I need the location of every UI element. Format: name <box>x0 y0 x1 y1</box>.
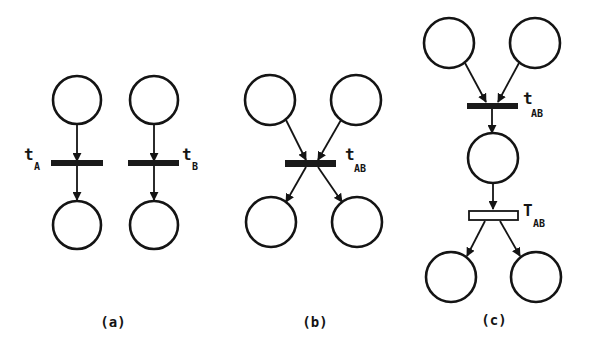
arc-c-in-right <box>498 63 519 102</box>
label-t-b-main: t <box>182 145 192 164</box>
transition-t-a <box>51 160 103 166</box>
panel-c: t AB T AB (c) <box>424 18 561 328</box>
arc-b-in-right <box>318 120 341 160</box>
caption-a: (a) <box>100 314 125 330</box>
place-a-top-right <box>130 76 178 124</box>
place-c-middle <box>468 133 518 183</box>
place-c-top-right <box>510 18 560 68</box>
label-t-ab-b-main: t <box>345 145 355 164</box>
petri-net-diagram: t A t B (a) t AB (b) <box>0 0 591 349</box>
place-c-top-left <box>424 18 474 68</box>
place-a-top-left <box>53 76 101 124</box>
label-t-ab-c-main: t <box>523 89 533 108</box>
label-t-a-sub: A <box>34 161 40 172</box>
arc-c-out-right <box>500 221 520 256</box>
label-big-t-ab-sub: AB <box>533 218 545 229</box>
label-big-t-ab-main: T <box>523 201 533 220</box>
place-b-top-right <box>331 75 381 125</box>
place-c-bottom-left <box>426 252 476 302</box>
panel-b: t AB (b) <box>245 75 382 330</box>
transition-t-ab-b <box>285 160 336 167</box>
transition-big-t-ab <box>469 211 518 220</box>
panel-a: t A t B (a) <box>24 76 198 330</box>
place-a-bottom-left <box>53 201 101 249</box>
arc-c-out-left <box>467 221 485 256</box>
place-c-bottom-right <box>511 252 561 302</box>
arc-b-out-right <box>318 167 342 202</box>
transition-t-b <box>128 160 179 166</box>
label-t-ab-c-sub: AB <box>531 108 543 119</box>
arc-c-in-left <box>465 63 486 102</box>
arc-b-in-left <box>286 120 306 160</box>
place-b-top-left <box>245 75 295 125</box>
arc-b-out-left <box>286 167 306 202</box>
place-a-bottom-right <box>130 201 178 249</box>
label-t-ab-b-sub: AB <box>354 163 366 174</box>
label-t-b-sub: B <box>192 161 198 172</box>
transition-t-ab-c <box>467 103 518 109</box>
caption-c: (c) <box>481 312 506 328</box>
place-b-bottom-left <box>246 197 296 247</box>
caption-b: (b) <box>302 314 327 330</box>
place-b-bottom-right <box>332 197 382 247</box>
label-t-a-main: t <box>24 145 34 164</box>
